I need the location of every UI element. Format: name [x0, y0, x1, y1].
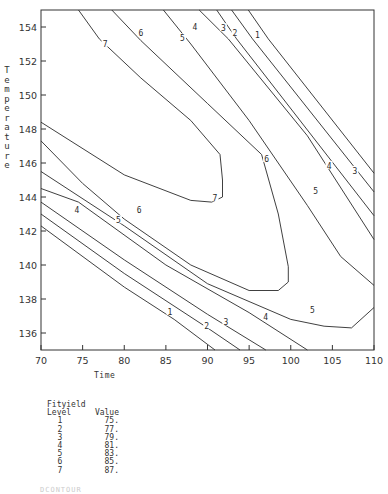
contour-label: 6 [137, 206, 142, 215]
y-tick-label: 146 [19, 158, 37, 169]
y-tick-label: 144 [19, 192, 37, 203]
legend-value: 87. [73, 467, 119, 475]
y-tick-label: 148 [19, 124, 37, 135]
contour-level-2 [232, 10, 374, 192]
contour-label: 4 [327, 162, 332, 171]
contour-label: 5 [180, 34, 185, 43]
contour-label: 5 [310, 306, 315, 315]
x-tick-label: 90 [201, 355, 213, 366]
y-tick-label: 140 [19, 260, 37, 271]
x-axis-title: Time [94, 371, 115, 380]
x-tick-label: 75 [77, 355, 89, 366]
contour-label: 6 [138, 29, 143, 38]
x-tick-label: 70 [35, 355, 47, 366]
x-tick-label: 85 [160, 355, 172, 366]
contour-level-7 [41, 10, 223, 202]
legend-rows: 175.277.379.481.583.685.787. [47, 417, 119, 474]
plot-border [41, 10, 374, 350]
y-tick-label: 152 [19, 56, 37, 67]
contour-label: 3 [223, 318, 228, 327]
contour-label: 2 [233, 29, 238, 38]
contour-level-2 [41, 214, 240, 350]
contour-label: 6 [264, 155, 269, 164]
contour-level-4 [41, 189, 307, 351]
y-tick-label: 136 [19, 328, 37, 339]
contour-label: 5 [116, 216, 121, 225]
x-tick-label: 105 [323, 355, 341, 366]
y-axis-title: Temperature [2, 66, 12, 171]
contour-legend: Fityield Level Value 175.277.379.481.583… [47, 401, 119, 475]
contour-label: 3 [352, 167, 357, 176]
x-tick-label: 80 [118, 355, 130, 366]
plot-frame [41, 10, 374, 350]
contour-level-1 [41, 226, 215, 350]
contour-level-3 [217, 10, 374, 216]
contour-lines [41, 10, 374, 350]
y-tick-label: 138 [19, 294, 37, 305]
x-tick-label: 95 [243, 355, 255, 366]
legend-entry: 787. [47, 467, 119, 475]
contour-level-5 [163, 10, 374, 285]
contour-level-1 [248, 10, 374, 173]
caption-fragment: DCONTOUR [40, 486, 82, 494]
x-tick-label: 100 [282, 355, 300, 366]
contour-label: 2 [204, 322, 209, 331]
x-axis-ticks: 707580859095100105110 [35, 345, 383, 366]
contour-label: 4 [74, 206, 79, 215]
y-axis-ticks: 136138140142144146148150152154 [19, 22, 46, 339]
contour-label: 4 [263, 313, 268, 322]
contour-label: 5 [313, 187, 318, 196]
legend-level-header: Level [47, 409, 85, 417]
contour-level-4 [199, 10, 374, 240]
legend-level: 7 [47, 467, 73, 475]
contour-label: 3 [221, 24, 226, 33]
contour-label: 1 [255, 31, 260, 40]
y-tick-label: 154 [19, 22, 37, 33]
contour-plot: 76543217654365454321 7075808590951001051… [0, 0, 388, 400]
contour-label: 4 [193, 23, 198, 32]
contour-label: 1 [168, 308, 173, 317]
contour-labels: 76543217654365454321 [73, 22, 358, 331]
x-tick-label: 110 [365, 355, 383, 366]
contour-level-3 [41, 202, 266, 350]
contour-level-6 [41, 10, 288, 291]
y-tick-label: 150 [19, 90, 37, 101]
contour-label: 7 [103, 40, 108, 49]
contour-label: 7 [213, 194, 218, 203]
y-tick-label: 142 [19, 226, 37, 237]
